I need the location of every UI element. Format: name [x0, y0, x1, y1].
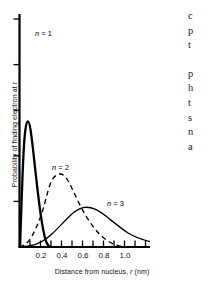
body-line: s — [188, 111, 208, 126]
curve-label-n3-value: = 3 — [111, 199, 124, 208]
radial-probability-figure: nn = 1 = 1 n = 2 n = 3 0.2 0.4 0.6 0.8 1… — [0, 0, 150, 284]
xtick-label-1.0: 1.0 — [113, 251, 137, 260]
body-line: n — [188, 125, 208, 140]
body-text-column: c p t p h t s n a — [150, 0, 208, 284]
body-line: p — [188, 24, 208, 39]
curve-n3 — [20, 207, 151, 247]
curve-label-n2: n = 2 — [52, 163, 69, 172]
body-line: a — [188, 140, 208, 155]
body-line: t — [188, 38, 208, 53]
body-paragraph-2: p h t s n a — [150, 67, 208, 155]
body-paragraph-1: c p t — [150, 9, 208, 53]
curve-label-n1-value: = 1 — [41, 29, 52, 38]
y-axis-label: Probability of finding electron at r — [11, 60, 18, 210]
body-line: p — [188, 67, 208, 82]
body-line: c — [188, 9, 208, 24]
plot-canvas — [0, 0, 150, 284]
curve-label-n2-value: = 2 — [56, 163, 69, 172]
body-line: t — [188, 96, 208, 111]
body-line: h — [188, 81, 208, 96]
curve-label-n3: n = 3 — [107, 199, 124, 208]
curve-n2 — [20, 174, 129, 247]
curve-label-n1: nn = 1 = 1 — [35, 29, 52, 38]
